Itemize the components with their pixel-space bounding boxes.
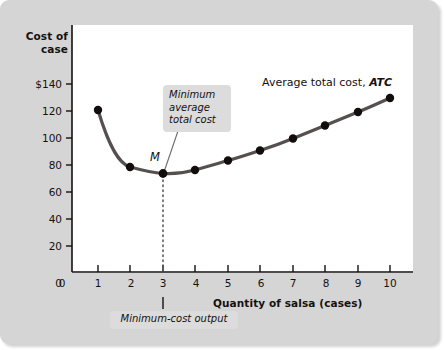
series-label-symbol: ATC xyxy=(369,76,392,89)
data-point-10 xyxy=(386,94,394,102)
data-point-3 xyxy=(159,169,168,178)
callout-minimum-cost-output: Minimum-cost output xyxy=(110,311,238,329)
data-point-4 xyxy=(191,166,199,174)
atc-data-markers xyxy=(94,94,394,178)
data-point-2 xyxy=(126,163,134,171)
callout-pointer-min-atc xyxy=(164,131,178,172)
atc-curve xyxy=(98,98,390,174)
data-point-7 xyxy=(289,134,297,142)
series-label-atc: Average total cost, ATC xyxy=(262,76,392,89)
data-point-5 xyxy=(224,156,232,164)
y-axis-ticks xyxy=(66,84,72,246)
figure-container: Cost ofcase $140 120 100 80 60 40 20 0 0… xyxy=(0,0,444,350)
data-point-9 xyxy=(354,108,362,116)
data-point-1 xyxy=(94,106,102,114)
point-label-m: M xyxy=(150,150,160,164)
data-point-6 xyxy=(256,146,264,154)
callout-minimum-average-total-cost: Minimumaveragetotal cost xyxy=(163,85,231,132)
data-point-8 xyxy=(321,121,329,129)
series-label-text: Average total cost, xyxy=(262,76,369,89)
x-axis-ticks xyxy=(98,265,390,272)
chart-svg xyxy=(0,0,444,350)
